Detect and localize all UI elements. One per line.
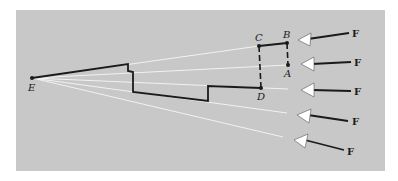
force-arrow-4: F [297, 109, 359, 127]
arrowhead-icon [297, 109, 311, 123]
force-arrow-5: F [294, 134, 354, 157]
force-label: F [347, 146, 354, 157]
force-arrow-3: F [301, 83, 361, 97]
label-b: B [282, 29, 290, 40]
arrowhead-icon [298, 33, 311, 46]
force-arrow-1: F [298, 28, 359, 46]
point-a [286, 63, 290, 67]
point-e [30, 76, 34, 80]
label-d: D [256, 91, 265, 102]
dashed-ba [287, 43, 288, 65]
point-d [259, 86, 263, 90]
point-b [285, 41, 289, 45]
arrowhead-icon [294, 134, 308, 148]
force-label: F [352, 116, 359, 127]
label-a: A [283, 68, 291, 79]
arrowhead-icon [301, 83, 314, 97]
force-arrows: F F F F F [294, 28, 361, 157]
rays [32, 46, 288, 137]
dashed-cd [259, 46, 261, 88]
label-e: E [27, 82, 36, 93]
force-label: F [352, 28, 359, 39]
label-c: C [255, 32, 263, 43]
arrowhead-icon [301, 57, 314, 71]
force-label: F [354, 57, 361, 68]
force-label: F [354, 86, 361, 97]
segment-cb [259, 43, 287, 46]
force-arrow-2: F [301, 57, 361, 71]
force-diagram: E C B A D F F F F F [0, 0, 398, 181]
point-c [257, 44, 261, 48]
